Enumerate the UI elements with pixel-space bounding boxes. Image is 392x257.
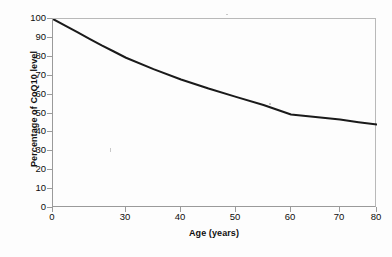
- y-tick-mark: [47, 18, 52, 19]
- x-tick-label: 0: [32, 212, 72, 222]
- x-tick-mark: [180, 207, 181, 212]
- x-tick-mark: [125, 207, 126, 212]
- x-tick-label: 80: [356, 212, 392, 222]
- x-tick-label: 50: [215, 212, 255, 222]
- y-tick-label: 20: [2, 164, 46, 174]
- y-tick-mark: [47, 56, 52, 57]
- y-tick-label: 0: [2, 202, 46, 212]
- x-tick-mark: [52, 207, 53, 212]
- x-tick-label: 40: [160, 212, 200, 222]
- y-tick-label: 80: [2, 51, 46, 61]
- y-tick-mark: [47, 150, 52, 151]
- y-tick-label: 100: [2, 13, 46, 23]
- series-line-coq10: [53, 19, 377, 208]
- y-tick-mark: [47, 188, 52, 189]
- x-tick-mark: [339, 207, 340, 212]
- y-tick-label: 40: [2, 126, 46, 136]
- y-tick-label: 90: [2, 32, 46, 42]
- y-tick-mark: [47, 113, 52, 114]
- y-tick-mark: [47, 75, 52, 76]
- y-tick-mark: [47, 94, 52, 95]
- plot-area: [52, 18, 376, 207]
- y-tick-mark: [47, 169, 52, 170]
- y-tick-label: 10: [2, 183, 46, 193]
- y-tick-label: 50: [2, 108, 46, 118]
- x-tick-label: 70: [319, 212, 359, 222]
- y-tick-label: 30: [2, 145, 46, 155]
- scan-artifact-speck: [226, 14, 228, 15]
- x-axis-title: Age (years): [52, 228, 376, 238]
- x-tick-mark: [290, 207, 291, 212]
- chart-container: Percentage of CoQ10 level 10090807060504…: [0, 0, 392, 257]
- x-tick-label: 30: [105, 212, 145, 222]
- y-tick-label: 60: [2, 89, 46, 99]
- x-tick-mark: [235, 207, 236, 212]
- scan-artifact-speck: [269, 103, 271, 105]
- x-tick-mark: [376, 207, 377, 212]
- scan-artifact-speck: [110, 148, 111, 152]
- y-tick-label: 70: [2, 70, 46, 80]
- x-tick-label: 60: [270, 212, 310, 222]
- y-tick-mark: [47, 37, 52, 38]
- y-tick-mark: [47, 131, 52, 132]
